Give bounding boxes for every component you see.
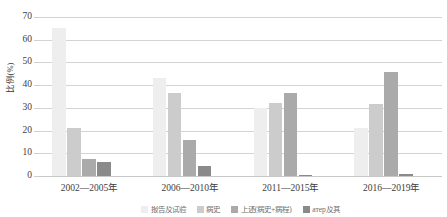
- y-axis-tick-mark: [34, 176, 39, 177]
- y-axis-tick-label: 50: [6, 57, 32, 67]
- bar[interactable]: [369, 104, 383, 176]
- y-axis-tick-label: 40: [6, 80, 32, 90]
- bar[interactable]: [254, 108, 268, 176]
- legend-item[interactable]: атер及其: [303, 206, 340, 214]
- legend-item[interactable]: 报告及试验: [141, 206, 186, 214]
- y-axis-tick-label: 70: [6, 12, 32, 22]
- bar-chart: 比例(%) 706050403020100 2002—2005年2006—201…: [0, 0, 447, 217]
- y-axis-tick-labels: 706050403020100: [6, 0, 32, 217]
- bars-layer: [39, 17, 442, 176]
- bar[interactable]: [183, 140, 197, 176]
- bar[interactable]: [67, 128, 81, 176]
- bar-group: [140, 17, 241, 176]
- bar[interactable]: [354, 128, 368, 176]
- legend-swatch: [231, 206, 238, 213]
- chart-legend: 报告及试验病史上述(病史+病程)атер及其: [39, 206, 442, 217]
- bar-group: [39, 17, 140, 176]
- legend-swatch: [303, 206, 310, 213]
- bar[interactable]: [269, 103, 283, 176]
- bar[interactable]: [284, 93, 298, 176]
- legend-label: атер及其: [312, 206, 340, 214]
- bar[interactable]: [168, 93, 182, 176]
- bar[interactable]: [384, 72, 398, 176]
- y-axis-tick-label: 0: [6, 171, 32, 181]
- y-axis-tick-label: 30: [6, 103, 32, 113]
- bar[interactable]: [97, 162, 111, 176]
- legend-swatch: [197, 206, 204, 213]
- legend-label: 报告及试验: [151, 206, 186, 214]
- bar[interactable]: [153, 78, 167, 176]
- legend-item[interactable]: 病史: [197, 206, 221, 214]
- bar-group: [241, 17, 342, 176]
- legend-label: 上述(病史+病程): [241, 206, 292, 214]
- y-axis-tick-label: 10: [6, 148, 32, 158]
- bar[interactable]: [198, 166, 212, 176]
- axis-baseline: [39, 176, 442, 177]
- x-axis-tick-label: 2006—2010年: [140, 180, 241, 194]
- y-axis-tick-label: 60: [6, 35, 32, 45]
- bar[interactable]: [52, 28, 66, 176]
- bar[interactable]: [299, 175, 313, 176]
- plot-area: [39, 17, 442, 176]
- x-axis-tick-labels: 2002—2005年2006—2010年2011—2015年2016—2019年: [39, 180, 442, 194]
- y-axis-tick-label: 20: [6, 126, 32, 136]
- bar[interactable]: [399, 174, 413, 176]
- legend-item[interactable]: 上述(病史+病程): [231, 206, 292, 214]
- legend-label: 病史: [206, 206, 220, 214]
- legend-swatch: [141, 206, 148, 213]
- x-axis-tick-label: 2011—2015年: [241, 180, 342, 194]
- x-axis-tick-label: 2016—2019年: [341, 180, 442, 194]
- x-axis-tick-label: 2002—2005年: [39, 180, 140, 194]
- bar[interactable]: [82, 159, 96, 176]
- bar-group: [341, 17, 442, 176]
